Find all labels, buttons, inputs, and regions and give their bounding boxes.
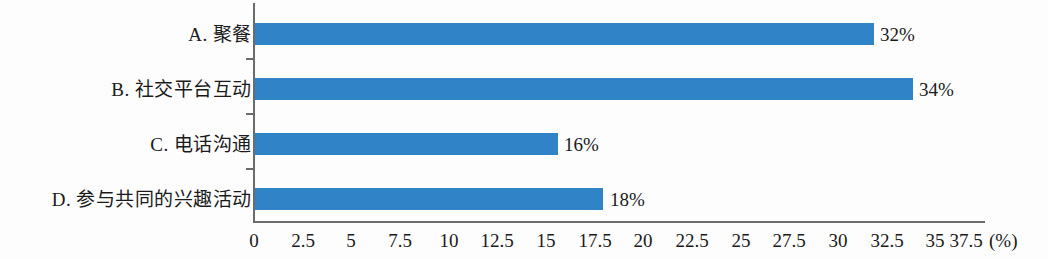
bar-value-b: 34% [919, 80, 954, 99]
bar-b [255, 78, 913, 100]
category-label-d: D. 参与共同的兴趣活动 [52, 190, 252, 209]
bar-d [255, 188, 603, 210]
x-tick-label: 0 [249, 231, 259, 250]
bar-row: C. 电话沟通 16% [0, 133, 1048, 155]
x-axis-line [253, 221, 985, 223]
x-axis-unit-label: (%) [989, 231, 1017, 250]
bar-row: B. 社交平台互动 34% [0, 78, 1048, 100]
x-tick-label: 37.5 [949, 231, 982, 250]
x-tick-label: 27.5 [772, 231, 805, 250]
category-label-c: C. 电话沟通 [150, 135, 252, 154]
category-label-b: B. 社交平台互动 [111, 80, 252, 99]
x-tick-label: 15 [537, 231, 556, 250]
x-tick-label: 30 [829, 231, 848, 250]
y-axis-tick [246, 58, 254, 60]
x-tick-label: 12.5 [480, 231, 513, 250]
x-tick-label: 17.5 [578, 231, 611, 250]
x-tick-label: 7.5 [388, 231, 412, 250]
bar-row: A. 聚餐 32% [0, 23, 1048, 45]
x-tick-label: 2.5 [291, 231, 315, 250]
x-tick-label: 25 [732, 231, 751, 250]
bar-value-c: 16% [564, 135, 599, 154]
y-axis-tick [246, 113, 254, 115]
bar-c [255, 133, 558, 155]
x-tick-label: 10 [440, 231, 459, 250]
bar-value-d: 18% [610, 190, 645, 209]
y-axis-tick [246, 168, 254, 170]
x-tick-label: 5 [346, 231, 356, 250]
x-tick-label: 35 [926, 231, 945, 250]
bar-row: D. 参与共同的兴趣活动 18% [0, 188, 1048, 210]
category-label-a: A. 聚餐 [188, 25, 252, 44]
x-tick-label: 20 [634, 231, 653, 250]
x-tick-label: 32.5 [870, 231, 903, 250]
bar-a [255, 23, 874, 45]
x-tick-label: 22.5 [675, 231, 708, 250]
bar-value-a: 32% [880, 25, 915, 44]
bar-chart: A. 聚餐 32% B. 社交平台互动 34% C. 电话沟通 16% D. 参… [0, 0, 1048, 259]
